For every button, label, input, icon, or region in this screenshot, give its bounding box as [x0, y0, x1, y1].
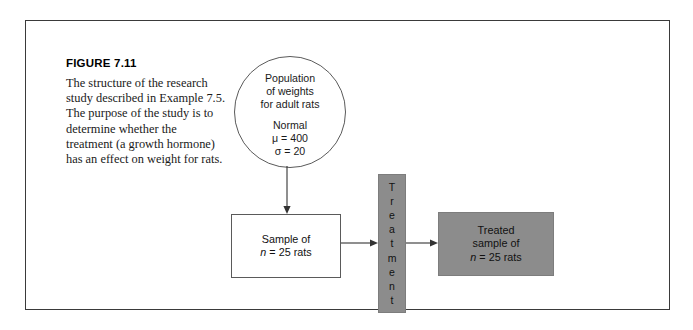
treatment-letter: a	[389, 222, 395, 236]
figure-number: FIGURE 7.11	[66, 57, 226, 69]
population-line-1: Population	[265, 72, 315, 85]
population-line-3: for adult rats	[261, 98, 320, 111]
caption-block: FIGURE 7.11 The structure of the researc…	[66, 57, 226, 167]
treatment-letter: t	[391, 236, 394, 250]
population-line-2: of weights	[266, 85, 314, 98]
treatment-letter: m	[388, 251, 397, 265]
sample-line-2: n = 25 rats	[260, 246, 311, 260]
treated-n-value: = 25 rats	[476, 251, 521, 263]
sample-line-1: Sample of	[262, 233, 311, 247]
treated-line-2: sample of	[473, 237, 520, 251]
treatment-letter: e	[389, 208, 395, 222]
treated-line-1: Treated	[478, 224, 515, 238]
population-distribution-group: Normal μ = 400 σ = 20	[272, 119, 308, 158]
treatment-letter: T	[389, 180, 395, 194]
arrow-population-to-sample	[276, 166, 298, 216]
population-circle: Population of weights for adult rats Nor…	[234, 56, 346, 168]
treated-sample-box: Treated sample of n = 25 rats	[438, 212, 554, 276]
arrow-sample-to-treatment	[339, 233, 381, 253]
treated-line-3: n = 25 rats	[470, 251, 521, 265]
treatment-letter: e	[389, 265, 395, 279]
treatment-letter: r	[390, 194, 394, 208]
treatment-letter: n	[389, 279, 395, 293]
population-sd: σ = 20	[272, 145, 308, 158]
arrow-treatment-to-treated-sample	[404, 233, 442, 253]
population-distribution: Normal	[272, 119, 308, 132]
sample-n-value: = 25 rats	[266, 246, 311, 258]
sample-box: Sample of n = 25 rats	[231, 214, 341, 278]
figure-caption: The structure of the research study desc…	[66, 76, 226, 167]
population-mean: μ = 400	[272, 132, 308, 145]
treatment-bar: T r e a t m e n t	[378, 174, 406, 313]
treatment-letter: t	[391, 293, 394, 307]
figure-frame: FIGURE 7.11 The structure of the researc…	[25, 20, 670, 310]
